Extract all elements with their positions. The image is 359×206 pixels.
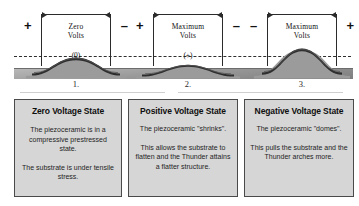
state-1-actuator-arch	[22, 39, 130, 79]
state-3-right-polarity: +	[346, 20, 354, 31]
arrow-right-icon	[268, 12, 273, 18]
state-3-left-polarity: –	[250, 20, 257, 31]
state-2-number: 2.	[134, 79, 242, 89]
arrow-left-icon	[217, 12, 222, 18]
arrow-right-icon	[42, 12, 47, 18]
state-3-negative-voltage: – + Maximum Volts (-) 3.	[248, 0, 356, 95]
figure-sheet: + – Zero Volts (0) 1.	[0, 0, 359, 206]
caption-boxes: Zero Voltage State The piezoceramic is i…	[0, 99, 359, 203]
state-2-actuator-arch	[134, 39, 242, 79]
arrow-left-icon	[105, 12, 110, 18]
state-3-voltage-label: Maximum Volts	[268, 23, 336, 40]
caption-title-negative: Negative Voltage State	[250, 106, 348, 116]
thunder-actuator-diagram: + – Zero Volts (0) 1.	[0, 0, 359, 95]
state-2-voltage-label: Maximum Volts	[154, 23, 222, 40]
state-2-arch-shape	[134, 39, 242, 79]
state-1-number: 1.	[22, 79, 130, 89]
state-1-zero-voltage: + – Zero Volts (0) 1.	[22, 0, 130, 95]
state-3-number: 3.	[248, 79, 356, 89]
caption-title-positive: Positive Voltage State	[134, 106, 232, 116]
caption-zero-paragraph-2: The substrate is under tensile stress.	[20, 163, 116, 182]
state-3-actuator-arch	[248, 39, 356, 79]
state-2-left-polarity: +	[136, 20, 144, 31]
caption-title-zero: Zero Voltage State	[20, 106, 116, 116]
scan-rule-right	[178, 92, 343, 93]
state-3-arch-shape	[248, 39, 356, 79]
arrow-left-icon	[331, 12, 336, 18]
caption-box-zero-voltage: Zero Voltage State The piezoceramic is i…	[14, 99, 122, 197]
caption-positive-paragraph-2: This allows the substrate to flatten and…	[134, 143, 232, 172]
state-1-left-polarity: +	[24, 20, 32, 31]
caption-negative-paragraph-2: This pulls the substrate and the Thunder…	[250, 143, 348, 162]
state-2-right-polarity: –	[233, 20, 240, 31]
caption-box-positive-voltage: Positive Voltage State The piezoceramic …	[128, 99, 238, 197]
scan-rule-left	[20, 92, 165, 93]
caption-box-negative-voltage: Negative Voltage State The piezoceramic …	[244, 99, 354, 197]
caption-positive-paragraph-1: The piezoceramic "shrinks".	[134, 124, 232, 134]
caption-negative-paragraph-1: The piezoceramic "domes".	[250, 124, 348, 134]
state-1-voltage-label: Zero Volts	[42, 23, 110, 40]
state-2-positive-voltage: + – Maximum Volts (+) 2.	[134, 0, 242, 95]
caption-zero-paragraph-1: The piezoceramic is in a compressive pre…	[20, 125, 116, 154]
arrow-right-icon	[154, 12, 159, 18]
state-1-arch-shape	[22, 39, 130, 79]
state-1-right-polarity: –	[121, 20, 128, 31]
